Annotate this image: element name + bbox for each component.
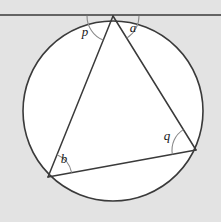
geometry-figure: p a b q (0, 0, 221, 222)
angle-label-q: q (164, 128, 171, 143)
angle-label-a: a (130, 20, 137, 35)
angle-label-b: b (61, 151, 68, 166)
angle-label-p: p (81, 24, 89, 39)
geometry-canvas: p a b q (0, 0, 221, 222)
